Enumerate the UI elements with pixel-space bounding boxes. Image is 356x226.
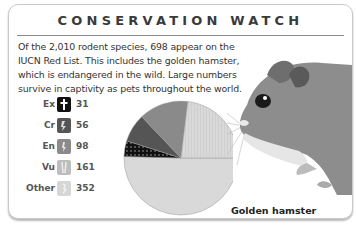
legend-item-other: Other 352 <box>9 181 109 197</box>
intro-text: Of the 2,010 rodent species, 698 appear … <box>18 40 253 96</box>
legend-label: Ex <box>43 99 55 109</box>
critically-endangered-icon <box>57 118 71 133</box>
legend-label: En <box>42 141 55 151</box>
legend-label: Other <box>26 183 55 193</box>
legend-value: 161 <box>76 162 95 172</box>
legend-value: 56 <box>76 120 89 130</box>
pie-slice-vu <box>181 101 233 158</box>
vulnerable-icon <box>57 160 71 175</box>
legend-item-ex: Ex 31 <box>9 97 109 113</box>
other-icon <box>57 181 71 196</box>
pie-slices <box>124 101 233 215</box>
legend-value: 31 <box>76 99 89 109</box>
pie-chart <box>113 97 233 217</box>
hamster-illustration <box>227 35 352 195</box>
illustration-caption: Golden hamster <box>231 205 316 216</box>
legend-label: Cr <box>44 120 55 130</box>
legend-item-en: En 98 <box>9 139 109 155</box>
legend-item-vu: Vu 161 <box>9 160 109 176</box>
legend-value: 98 <box>76 141 89 151</box>
endangered-icon <box>57 139 71 154</box>
pie-slice-other <box>124 156 233 215</box>
legend-item-cr: Cr 56 <box>9 118 109 134</box>
panel-title: CONSERVATION WATCH <box>9 13 352 28</box>
conservation-watch-panel: CONSERVATION WATCH Of the 2,010 rodent s… <box>8 4 353 219</box>
legend-label: Vu <box>42 162 55 172</box>
legend-value: 352 <box>76 183 95 193</box>
dagger-icon <box>57 97 71 112</box>
